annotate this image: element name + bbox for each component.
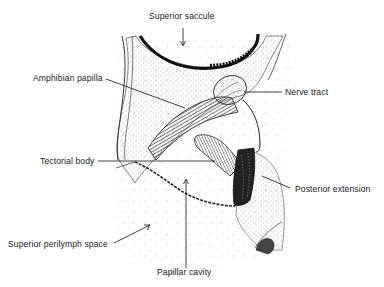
label-nerve-tract: Nerve tract xyxy=(285,88,328,97)
label-tectorial-body: Tectorial body xyxy=(40,157,94,166)
label-superior-saccule: Superior saccule xyxy=(149,12,215,21)
label-amphibian-papilla: Amphibian papilla xyxy=(33,74,103,83)
label-papillar-cavity: Papillar cavity xyxy=(157,268,212,277)
label-posterior-extension: Posterior extension xyxy=(295,185,370,194)
label-superior-perilymph-space: Superior perilymph space xyxy=(8,240,108,249)
